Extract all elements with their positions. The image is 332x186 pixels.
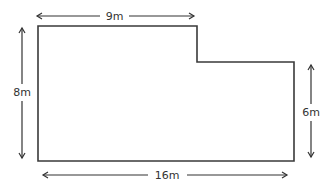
bottom-dimension-label: 16m bbox=[155, 169, 180, 182]
l-shape-diagram: 9m 8m 6m 16m bbox=[0, 0, 332, 186]
top-dimension: 9m bbox=[37, 10, 194, 23]
bottom-dimension: 16m bbox=[43, 169, 287, 182]
top-dimension-label: 9m bbox=[106, 10, 124, 23]
right-dimension-label: 6m bbox=[302, 106, 320, 119]
l-shape-outline bbox=[38, 26, 294, 161]
left-dimension-label: 8m bbox=[13, 86, 31, 99]
right-dimension: 6m bbox=[302, 65, 320, 157]
left-dimension: 8m bbox=[13, 28, 31, 158]
